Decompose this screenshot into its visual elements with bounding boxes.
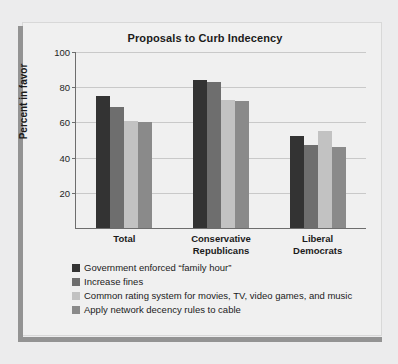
bar [235, 101, 249, 228]
legend-swatch-icon [72, 278, 80, 286]
y-axis-tick-label: 60 [44, 117, 70, 128]
x-axis-category-label-line: Conservative [173, 233, 270, 245]
x-axis-category-label-line: Total [76, 233, 173, 245]
y-axis-tick-label: 40 [44, 152, 70, 163]
y-axis-tick-label: 100 [44, 47, 70, 58]
legend-swatch-icon [72, 306, 80, 314]
legend-label: Government enforced “family hour” [84, 262, 231, 274]
y-axis-tick-mark [72, 122, 76, 123]
x-axis-category-label-line: Liberal [269, 233, 366, 245]
bar [96, 96, 110, 228]
y-axis-tick-label: 20 [44, 187, 70, 198]
legend-swatch-icon [72, 292, 80, 300]
chart-page: Proposals to Curb Indecency Percent in f… [0, 0, 398, 364]
y-axis-tick-mark [72, 158, 76, 159]
legend-label: Common rating system for movies, TV, vid… [84, 290, 352, 302]
bar-group [173, 52, 270, 228]
legend-label: Apply network decency rules to cable [84, 304, 241, 316]
bar [304, 145, 318, 228]
y-axis-tick-labels: 20406080100 [44, 52, 70, 228]
y-axis-tick-mark [72, 87, 76, 88]
bar [193, 80, 207, 228]
bar [124, 121, 138, 228]
bar-group [269, 52, 366, 228]
chart-legend: Government enforced “family hour”Increas… [72, 262, 378, 318]
decorative-rule-horizontal [18, 337, 382, 342]
bar [138, 122, 152, 228]
bar [332, 147, 346, 228]
bar [207, 82, 221, 228]
legend-item: Common rating system for movies, TV, vid… [72, 290, 378, 302]
bar [110, 107, 124, 228]
bar-group [76, 52, 173, 228]
legend-swatch-icon [72, 264, 80, 272]
chart-title: Proposals to Curb Indecency [40, 32, 370, 44]
x-axis-category-label-line: Republicans [173, 245, 270, 257]
x-axis-category-label: LiberalDemocrats [269, 233, 366, 257]
plot-area [76, 52, 366, 228]
bar [318, 131, 332, 228]
legend-label: Increase fines [84, 276, 143, 288]
x-axis-line [75, 228, 366, 229]
y-axis-tick-mark [72, 52, 76, 53]
legend-item: Increase fines [72, 276, 378, 288]
legend-item: Apply network decency rules to cable [72, 304, 378, 316]
y-axis-tick-mark [72, 193, 76, 194]
bar [290, 136, 304, 228]
x-axis-category-label: ConservativeRepublicans [173, 233, 270, 257]
y-axis-title: Percent in favor [18, 47, 29, 157]
x-axis-category-label-line: Democrats [269, 245, 366, 257]
y-axis-tick-label: 80 [44, 82, 70, 93]
legend-item: Government enforced “family hour” [72, 262, 378, 274]
bar [221, 100, 235, 228]
x-axis-category-label: Total [76, 233, 173, 245]
